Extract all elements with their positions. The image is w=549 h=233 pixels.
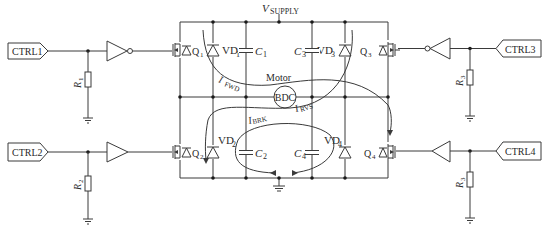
svg-text:1: 1 xyxy=(200,51,204,59)
ctrl2-label: CTRL2 xyxy=(12,147,43,158)
ctrl3-wiring xyxy=(398,38,496,121)
svg-text:V: V xyxy=(262,2,270,14)
svg-text:R: R xyxy=(72,82,83,89)
svg-text:2: 2 xyxy=(77,179,85,183)
ctrl3-label: CTRL3 xyxy=(505,44,536,55)
ctrl4-wiring xyxy=(396,141,496,223)
q3-label: Q xyxy=(360,46,368,57)
svg-text:4: 4 xyxy=(372,153,376,161)
transistor-q4-icon xyxy=(378,142,395,160)
c4-label: C xyxy=(294,147,302,159)
r4-label: R 3 xyxy=(454,177,467,189)
transistor-q2-icon xyxy=(173,144,191,160)
svg-text:R: R xyxy=(454,80,465,87)
c1-label: C xyxy=(255,45,263,57)
diode-vd3-icon xyxy=(338,43,352,57)
svg-text:SUPPLY: SUPPLY xyxy=(270,7,299,16)
svg-text:1: 1 xyxy=(77,77,85,81)
capacitor-c3-icon xyxy=(304,48,320,53)
svg-text:R: R xyxy=(454,182,465,189)
supply-label: V SUPPLY xyxy=(262,2,299,16)
i-fwd-label: I xyxy=(216,73,225,85)
svg-text:3: 3 xyxy=(302,50,306,59)
svg-text:3: 3 xyxy=(459,177,467,181)
svg-text:1: 1 xyxy=(263,50,267,59)
q2-label: Q xyxy=(192,148,200,159)
transistor-q1-icon xyxy=(173,42,191,58)
c3-label: C xyxy=(294,45,302,57)
capacitor-c2-icon xyxy=(238,150,254,155)
svg-text:3: 3 xyxy=(459,75,467,79)
q4-label: Q xyxy=(364,148,372,159)
capacitor-c4-icon xyxy=(304,150,320,155)
svg-text:3: 3 xyxy=(331,50,335,59)
svg-text:4: 4 xyxy=(338,140,342,149)
h-bridge-diagram: V SUPPLY VD 1 VD 3 VD 2 VD 4 xyxy=(0,0,549,233)
ctrl4-label: CTRL4 xyxy=(505,146,536,157)
diode-vd2-icon xyxy=(206,145,220,159)
r1-label: R 1 xyxy=(72,77,85,89)
svg-text:BRK: BRK xyxy=(252,115,268,126)
ctrl1-wiring xyxy=(48,41,172,123)
q1-label: Q xyxy=(192,46,200,57)
motor-symbol: BDC xyxy=(275,92,296,103)
transistor-q3-icon xyxy=(378,40,400,58)
svg-text:2: 2 xyxy=(263,152,267,161)
svg-text:3: 3 xyxy=(368,51,372,59)
capacitor-c1-icon xyxy=(238,48,254,53)
r2-label: R 2 xyxy=(72,179,85,191)
svg-text:2: 2 xyxy=(200,153,204,161)
motor-caption: Motor xyxy=(266,72,292,83)
c2-label: C xyxy=(255,147,263,159)
r3-label: R 3 xyxy=(454,75,467,87)
ground-icon xyxy=(273,186,285,191)
ctrl1-label: CTRL1 xyxy=(12,46,43,57)
svg-text:4: 4 xyxy=(302,152,306,161)
svg-text:R: R xyxy=(72,184,83,191)
ctrl2-wiring xyxy=(48,142,172,224)
